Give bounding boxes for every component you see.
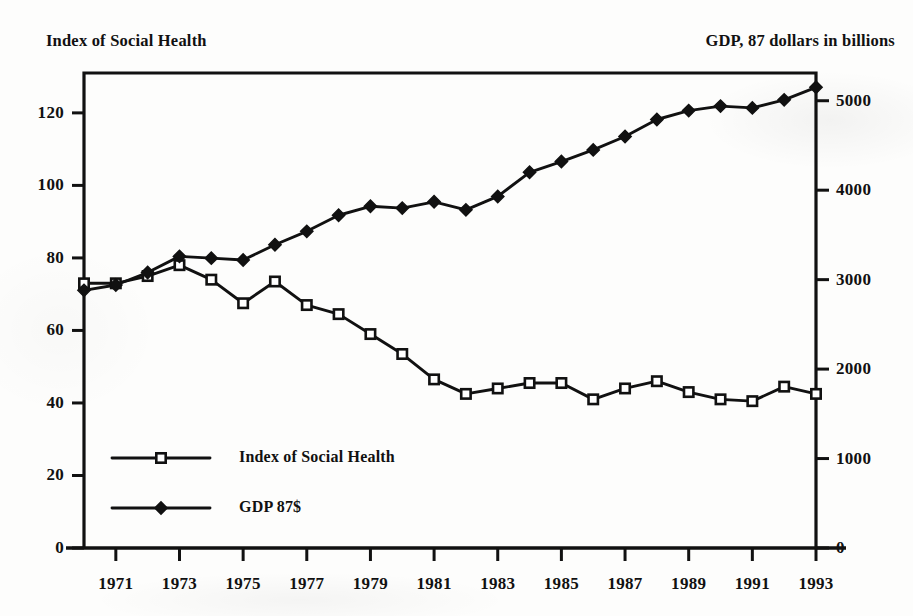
marker-open-square [238, 299, 247, 308]
x-tick-label: 1979 [353, 574, 388, 594]
marker-filled-diamond [810, 81, 822, 93]
marker-open-square [620, 384, 629, 393]
marker-open-square [366, 329, 375, 338]
x-tick-label: 1987 [607, 574, 642, 594]
marker-open-square [557, 378, 566, 387]
marker-filled-diamond [587, 144, 599, 156]
marker-open-square [207, 275, 216, 284]
y-tick-label: 80 [0, 248, 64, 268]
series-2 [78, 81, 822, 296]
x-tick-label: 1971 [98, 574, 133, 594]
marker-open-square [302, 300, 311, 309]
marker-filled-diamond [428, 196, 440, 208]
plot-border [84, 73, 816, 548]
marker-filled-diamond [155, 502, 167, 514]
x-tick-label: 1991 [735, 574, 770, 594]
marker-open-square [589, 395, 598, 404]
marker-filled-diamond [619, 130, 631, 142]
legend-marks [112, 453, 210, 514]
x-tick-label: 1973 [162, 574, 197, 594]
x-tick-label: 1975 [226, 574, 261, 594]
marker-filled-diamond [651, 113, 663, 125]
marker-filled-diamond [396, 202, 408, 214]
y2-tick-label: 5000 [836, 91, 871, 111]
marker-open-square [398, 349, 407, 358]
x-tick-label: 1977 [289, 574, 324, 594]
marker-open-square [748, 396, 757, 405]
chart-canvas [0, 0, 913, 616]
legend-item-label: GDP 87$ [239, 498, 301, 516]
y-tick-label: 20 [0, 465, 64, 485]
data-series-layer [78, 81, 822, 406]
y2-tick-label: 1000 [836, 449, 871, 469]
y-tick-label: 100 [0, 175, 64, 195]
x-tick-label: 1989 [671, 574, 706, 594]
marker-open-square [461, 389, 470, 398]
marker-filled-diamond [555, 155, 567, 167]
marker-open-square [525, 378, 534, 387]
marker-filled-diamond [269, 239, 281, 251]
marker-filled-diamond [301, 225, 313, 237]
marker-open-square [652, 377, 661, 386]
series-line [84, 265, 816, 401]
x-tick-label: 1981 [416, 574, 451, 594]
y-tick-label: 40 [0, 393, 64, 413]
marker-open-square [684, 387, 693, 396]
marker-open-square [156, 453, 165, 462]
marker-filled-diamond [332, 209, 344, 221]
y-tick-label: 60 [0, 320, 64, 340]
y2-tick-label: 2000 [836, 359, 871, 379]
x-tick-label: 1993 [798, 574, 833, 594]
marker-filled-diamond [682, 104, 694, 116]
x-tick-label: 1985 [544, 574, 579, 594]
marker-filled-diamond [237, 254, 249, 266]
marker-open-square [429, 375, 438, 384]
series-1 [79, 260, 820, 405]
series-line [84, 87, 816, 290]
y-tick-label: 0 [0, 538, 64, 558]
marker-open-square [811, 389, 820, 398]
plot-frame [66, 73, 846, 548]
y-tick-label: 120 [0, 103, 64, 123]
tick-marks [72, 101, 829, 561]
x-tick-label: 1983 [480, 574, 515, 594]
marker-open-square [716, 395, 725, 404]
marker-filled-diamond [746, 102, 758, 114]
marker-open-square [779, 382, 788, 391]
marker-open-square [334, 309, 343, 318]
y2-tick-label: 3000 [836, 270, 871, 290]
y2-tick-label: 0 [836, 538, 845, 558]
marker-filled-diamond [714, 100, 726, 112]
marker-filled-diamond [364, 200, 376, 212]
marker-open-square [493, 384, 502, 393]
marker-filled-diamond [460, 204, 472, 216]
marker-filled-diamond [205, 252, 217, 264]
marker-filled-diamond [778, 94, 790, 106]
marker-open-square [270, 277, 279, 286]
chart-page: Index of Social Health GDP, 87 dollars i… [0, 0, 913, 616]
y2-tick-label: 4000 [836, 180, 871, 200]
legend-item-label: Index of Social Health [239, 448, 395, 466]
